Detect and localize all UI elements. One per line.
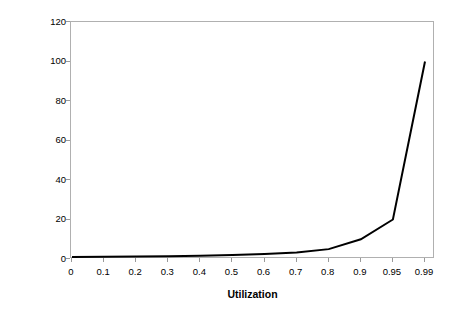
x-axis-tick-label: 0.8: [321, 266, 334, 277]
y-axis-ticks: 020406080100120: [0, 0, 70, 237]
x-axis-tick-label: 0.5: [225, 266, 238, 277]
data-line-series: [71, 22, 435, 259]
x-axis-tick-mark: [167, 258, 168, 262]
x-axis-tick-label: 0.9: [353, 266, 366, 277]
x-axis-tick-label: 0.3: [161, 266, 174, 277]
x-axis-ticks: 00.10.20.30.40.50.60.70.80.90.950.99: [70, 258, 434, 288]
x-axis-tick-label: 0.2: [129, 266, 142, 277]
response-time-curve: [72, 62, 425, 258]
plot-area: [70, 21, 434, 258]
x-axis-tick-label: 0.7: [289, 266, 302, 277]
x-axis-tick-mark: [264, 258, 265, 262]
x-axis-tick-mark: [199, 258, 200, 262]
x-axis-tick-label: 0: [68, 266, 73, 277]
x-axis-tick-mark: [328, 258, 329, 262]
x-axis-tick-mark: [103, 258, 104, 262]
x-axis-tick-mark: [424, 258, 425, 262]
x-axis-tick-mark: [71, 258, 72, 262]
x-axis-tick-mark: [296, 258, 297, 262]
x-axis-tick-label: 0.95: [383, 266, 402, 277]
x-axis-tick-label: 0.99: [415, 266, 434, 277]
x-axis-tick-mark: [360, 258, 361, 262]
chart-figure: Response Time / Service Time 02040608010…: [0, 0, 456, 311]
x-axis-tick-label: 0.4: [193, 266, 206, 277]
x-axis-tick-mark: [135, 258, 136, 262]
x-axis-tick-mark: [231, 258, 232, 262]
x-axis-title: Utilization: [70, 288, 435, 300]
x-axis-tick-mark: [392, 258, 393, 262]
x-axis-tick-label: 0.1: [96, 266, 109, 277]
x-axis-tick-label: 0.6: [257, 266, 270, 277]
